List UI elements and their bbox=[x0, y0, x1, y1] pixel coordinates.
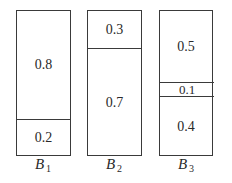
label-b2: B2 bbox=[87, 156, 141, 174]
label-b1: B1 bbox=[16, 156, 70, 174]
box-b2: 0.3 0.7 bbox=[87, 10, 142, 156]
segment-b2-top: 0.3 bbox=[88, 11, 141, 48]
segment-b1-top: 0.8 bbox=[17, 11, 70, 119]
label-b3: B3 bbox=[159, 156, 213, 174]
box-b1: 0.8 0.2 bbox=[16, 10, 71, 156]
segment-b3-bottom: 0.4 bbox=[160, 97, 212, 156]
segment-b2-bottom: 0.7 bbox=[88, 48, 141, 156]
segment-b3-middle: 0.1 bbox=[160, 82, 214, 97]
segment-b3-top: 0.5 bbox=[160, 11, 212, 82]
box-b3: 0.5 0.1 0.4 bbox=[159, 10, 213, 156]
segment-b1-bottom: 0.2 bbox=[17, 119, 70, 156]
